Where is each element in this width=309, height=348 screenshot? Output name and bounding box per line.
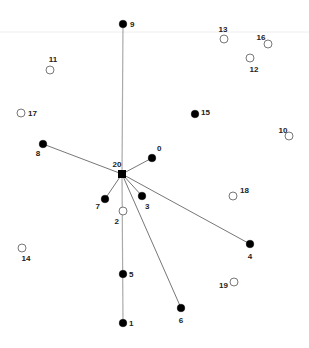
hub-label-20: 20 xyxy=(113,160,122,169)
edge-20-1 xyxy=(122,174,123,323)
node-label-18: 18 xyxy=(240,186,249,195)
node-label-12: 12 xyxy=(250,65,259,74)
filled-node-15[interactable] xyxy=(191,110,199,118)
node-label-4: 4 xyxy=(248,252,253,261)
node-label-1: 1 xyxy=(129,319,134,328)
open-node-19[interactable] xyxy=(230,278,238,286)
edge-20-0 xyxy=(122,158,152,174)
node-label-11: 11 xyxy=(49,55,58,64)
node-label-16: 16 xyxy=(257,33,266,42)
filled-node-0[interactable] xyxy=(148,154,156,162)
open-node-11[interactable] xyxy=(46,66,54,74)
filled-node-7[interactable] xyxy=(101,195,109,203)
node-label-3: 3 xyxy=(145,202,150,211)
filled-node-5[interactable] xyxy=(119,270,127,278)
edge-20-4 xyxy=(122,174,250,244)
node-label-9: 9 xyxy=(130,20,135,29)
filled-node-8[interactable] xyxy=(39,140,47,148)
filled-node-6[interactable] xyxy=(177,304,185,312)
node-label-19: 19 xyxy=(219,281,228,290)
edge-20-8 xyxy=(43,144,122,174)
node-label-7: 7 xyxy=(96,202,101,211)
edge-20-9 xyxy=(122,24,123,174)
hub-node-20[interactable] xyxy=(118,170,126,178)
node-label-2: 2 xyxy=(115,217,120,226)
node-label-17: 17 xyxy=(28,109,37,118)
node-label-5: 5 xyxy=(129,270,134,279)
node-label-0: 0 xyxy=(157,144,162,153)
open-node-2[interactable] xyxy=(119,207,127,215)
open-node-12[interactable] xyxy=(246,54,254,62)
node-label-6: 6 xyxy=(179,316,184,325)
node-label-14: 14 xyxy=(22,254,31,263)
open-node-17[interactable] xyxy=(17,109,25,117)
node-label-10: 10 xyxy=(279,126,288,135)
label-layer: 01234567891011121314151617181920 xyxy=(22,20,288,328)
open-node-13[interactable] xyxy=(220,35,228,43)
filled-node-3[interactable] xyxy=(138,192,146,200)
network-diagram: 01234567891011121314151617181920 xyxy=(0,0,309,348)
filled-node-9[interactable] xyxy=(119,20,127,28)
node-label-13: 13 xyxy=(219,25,228,34)
edge-layer xyxy=(43,24,250,323)
node-label-8: 8 xyxy=(36,149,41,158)
open-node-18[interactable] xyxy=(229,192,237,200)
filled-node-1[interactable] xyxy=(119,319,127,327)
filled-node-4[interactable] xyxy=(246,240,254,248)
open-node-14[interactable] xyxy=(18,244,26,252)
node-label-15: 15 xyxy=(201,108,210,117)
edge-20-6 xyxy=(122,174,181,308)
diagram-svg: 01234567891011121314151617181920 xyxy=(0,0,309,348)
